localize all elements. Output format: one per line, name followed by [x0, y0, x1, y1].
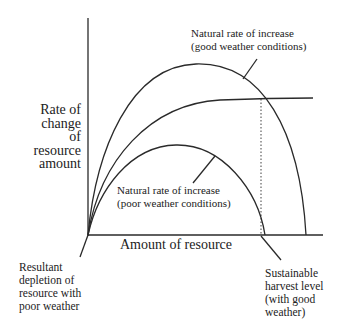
- sustainable-annotation: Sustainable harvest level (with good wea…: [265, 268, 323, 320]
- y-axis-label-line-3: of: [34, 130, 81, 144]
- depletion-annotation: Resultant depletion of resource with poo…: [19, 262, 81, 314]
- y-axis-label-line-2: change: [34, 117, 81, 131]
- y-axis-label: Rate of change of resource amount: [34, 103, 81, 171]
- depletion-line-4: poor weather: [19, 301, 81, 314]
- depletion-leader-line: [80, 235, 88, 257]
- y-axis-label-line-1: Rate of: [34, 103, 81, 117]
- poor-weather-label: Natural rate of increase (poor weather c…: [117, 185, 231, 211]
- sustainable-leader-line: [261, 236, 281, 260]
- poor-weather-leader-line: [193, 156, 215, 183]
- good-weather-label: Natural rate of increase (good weather c…: [191, 28, 306, 54]
- resource-harvest-diagram: Natural rate of increase (good weather c…: [0, 0, 348, 336]
- good-weather-leader-line: [243, 59, 257, 79]
- x-axis-label: Amount of resource: [120, 238, 232, 252]
- y-axis-label-line-5: amount: [34, 157, 81, 171]
- y-axis-label-line-4: resource: [34, 144, 81, 158]
- sustainable-line-4: weather): [265, 307, 323, 320]
- poor-weather-label-line-2: (poor weather conditions): [117, 198, 231, 211]
- good-weather-label-line-2: (good weather conditions): [191, 41, 306, 54]
